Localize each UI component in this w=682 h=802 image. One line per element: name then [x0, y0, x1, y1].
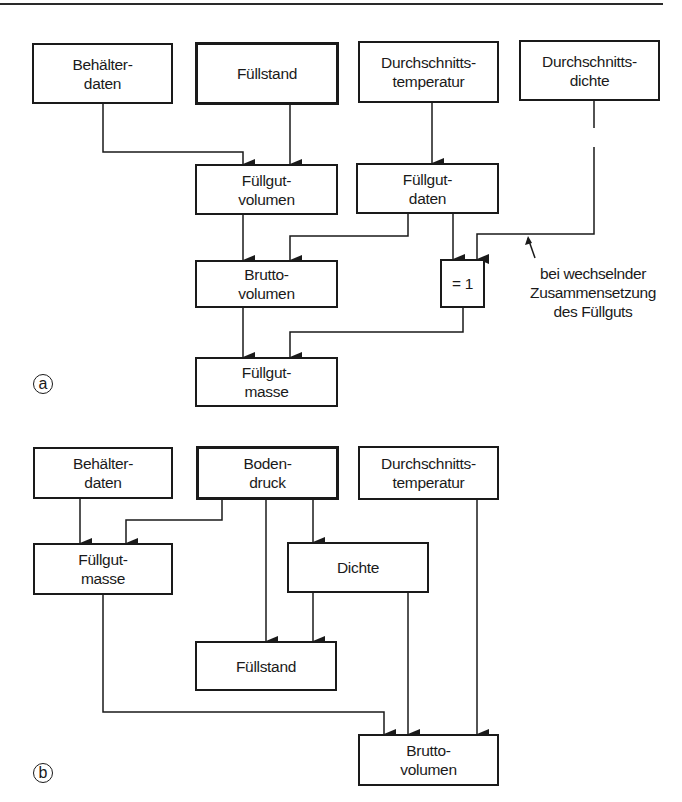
- node-label: masse: [244, 382, 288, 401]
- node-label: volumen: [238, 284, 295, 303]
- node-a-fuellgutmasse: Füllgut- masse: [195, 357, 338, 407]
- node-b-behaelterdaten: Behälter- daten: [33, 447, 173, 499]
- node-a-durchschnittsdichte: Durchschnitts- dichte: [519, 40, 660, 101]
- node-label: daten: [409, 189, 446, 208]
- node-label: = 1: [452, 274, 473, 293]
- edge-bodendruck-fuellgutmasse: [126, 500, 222, 543]
- node-b-fuellgutmasse: Füllgut- masse: [33, 543, 173, 595]
- node-label: masse: [81, 569, 125, 588]
- node-label: Füllstand: [236, 657, 296, 676]
- node-label: temperatur: [393, 473, 465, 492]
- node-a-fuellgutvolumen: Füllgut- volumen: [195, 164, 338, 215]
- node-label: Durchschnitts-: [542, 52, 637, 71]
- note-line: Zusammensetzung: [525, 283, 661, 302]
- edge-fuellgutdaten-bruttovolumen: [290, 214, 408, 260]
- node-label: volumen: [238, 190, 295, 209]
- node-label: Brutto-: [244, 265, 288, 284]
- node-a-fuellgutdaten: Füllgut- daten: [356, 163, 499, 214]
- panel-label-b: b: [33, 763, 53, 783]
- node-b-fuellstand: Füllstand: [195, 641, 337, 691]
- node-label: Brutto-: [406, 741, 450, 760]
- annotation-arrowhead: [525, 236, 532, 245]
- node-label: volumen: [400, 760, 457, 779]
- node-label: temperatur: [393, 72, 465, 91]
- node-label: Füllgut-: [242, 171, 291, 190]
- node-label: Füllgut-: [403, 170, 452, 189]
- connector-lines: [0, 0, 682, 802]
- node-a-eins: = 1: [440, 259, 485, 308]
- node-label: druck: [249, 473, 285, 492]
- node-label: Durchschnitts-: [381, 454, 476, 473]
- edge-behaelterdaten-fuellgutvolumen: [103, 104, 243, 164]
- node-label: Boden-: [243, 454, 291, 473]
- node-label: Füllstand: [237, 64, 297, 83]
- node-a-durchschnittstemperatur: Durchschnitts- temperatur: [358, 41, 499, 103]
- node-a-behaelterdaten: Behälter- daten: [32, 43, 173, 104]
- note-line: bei wechselnder: [525, 264, 661, 283]
- node-label: daten: [84, 74, 121, 93]
- edge-eins-fuellgutmasse: [290, 308, 463, 357]
- node-b-bodendruck: Boden- druck: [196, 446, 339, 500]
- node-label: Durchschnitts-: [381, 53, 476, 72]
- panel-label-a: a: [33, 374, 53, 394]
- note-line: des Füllguts: [525, 302, 661, 321]
- node-label: Füllgut-: [78, 550, 127, 569]
- panel-label-text: b: [39, 765, 48, 781]
- node-label: Behälter-: [72, 55, 132, 74]
- node-label: Dichte: [337, 558, 379, 577]
- annotation-note: bei wechselnder Zusammensetzung des Füll…: [525, 264, 661, 321]
- node-a-bruttovolumen: Brutto- volumen: [195, 260, 338, 308]
- panel-label-text: a: [39, 376, 48, 392]
- node-b-bruttovolumen: Brutto- volumen: [358, 734, 499, 786]
- node-b-dichte: Dichte: [287, 542, 429, 593]
- node-a-fuellstand: Füllstand: [195, 42, 339, 105]
- node-label: dichte: [570, 71, 610, 90]
- node-b-durchschnittstemperatur: Durchschnitts- temperatur: [358, 446, 499, 500]
- node-label: daten: [84, 473, 121, 492]
- node-label: Füllgut-: [242, 363, 291, 382]
- node-label: Behälter-: [73, 454, 133, 473]
